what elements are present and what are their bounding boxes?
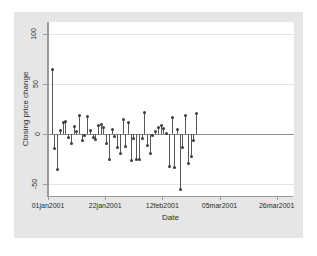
- x-tick-label: 05mar2001: [202, 202, 237, 209]
- data-point-marker: [184, 114, 187, 117]
- data-point-marker: [53, 147, 56, 150]
- y-tick-label: 50: [0, 80, 40, 88]
- x-axis-title: Date: [48, 213, 293, 222]
- data-point-marker: [181, 146, 184, 149]
- x-axis-line: [47, 196, 293, 197]
- data-point-marker: [78, 114, 81, 117]
- data-point-marker: [124, 145, 127, 148]
- spike-bar: [191, 134, 192, 156]
- data-point-marker: [122, 118, 125, 121]
- data-point-marker: [195, 112, 198, 115]
- data-point-marker: [143, 111, 146, 114]
- data-point-marker: [187, 162, 190, 165]
- spike-bar: [136, 134, 137, 159]
- spike-bar: [188, 134, 189, 163]
- spike-bar: [54, 134, 55, 148]
- y-axis-title-label: Closing price change: [20, 22, 32, 196]
- data-point-marker: [146, 144, 149, 147]
- gridline-50: [49, 84, 294, 85]
- data-point-marker: [165, 132, 168, 135]
- gridline-100: [49, 34, 294, 35]
- y-tick-mark: [43, 134, 47, 135]
- spike-bar: [172, 117, 173, 134]
- data-point-marker: [173, 166, 176, 169]
- x-tick-mark: [277, 196, 278, 200]
- data-point-marker: [149, 152, 152, 155]
- data-point-marker: [127, 121, 130, 124]
- spike-bar: [174, 134, 175, 167]
- figure-canvas: Closing price change 100500-50 01jan2001…: [0, 0, 317, 256]
- spike-bar: [52, 69, 53, 134]
- data-point-marker: [94, 138, 97, 141]
- x-tick-mark: [220, 196, 221, 200]
- x-tick-mark: [48, 196, 49, 200]
- spike-bar: [150, 134, 151, 153]
- data-point-marker: [138, 158, 141, 161]
- spike-bar: [109, 134, 110, 159]
- spike-bar: [196, 113, 197, 134]
- data-point-marker: [105, 142, 108, 145]
- data-point-marker: [64, 120, 67, 123]
- y-tick-label: -50: [0, 180, 40, 188]
- data-point-marker: [130, 159, 133, 162]
- spike-bar: [180, 134, 181, 189]
- data-point-marker: [75, 130, 78, 133]
- x-tick-label: 26mar2001: [259, 202, 294, 209]
- spike-bar: [65, 121, 66, 134]
- spike-bar: [57, 134, 58, 169]
- y-tick-label-text: 0: [34, 132, 42, 136]
- x-tick-mark: [105, 196, 106, 200]
- x-tick-label: 22jan2001: [89, 202, 122, 209]
- data-point-marker: [119, 152, 122, 155]
- y-tick-label-text: 50: [32, 80, 40, 88]
- y-tick-label-text: 100: [30, 28, 38, 40]
- data-point-marker: [81, 139, 84, 142]
- y-tick-mark: [43, 34, 47, 35]
- x-tick-label: 12feb2001: [146, 202, 179, 209]
- spike-bar: [185, 115, 186, 134]
- spike-bar: [169, 134, 170, 166]
- data-point-marker: [132, 137, 135, 140]
- data-point-marker: [86, 115, 89, 118]
- data-point-marker: [179, 188, 182, 191]
- data-point-marker: [111, 128, 114, 131]
- data-point-marker: [154, 130, 157, 133]
- data-point-marker: [171, 116, 174, 119]
- data-point-marker: [89, 129, 92, 132]
- data-point-marker: [51, 68, 54, 71]
- spike-bar: [87, 116, 88, 134]
- data-point-marker: [56, 168, 59, 171]
- spike-bar: [79, 115, 80, 134]
- data-point-marker: [116, 146, 119, 149]
- data-point-marker: [73, 125, 76, 128]
- data-point-marker: [102, 126, 105, 129]
- data-point-marker: [59, 129, 62, 132]
- data-point-marker: [192, 139, 195, 142]
- spike-bar: [128, 122, 129, 134]
- data-point-marker: [70, 142, 73, 145]
- spike-bar: [144, 112, 145, 134]
- data-point-marker: [168, 165, 171, 168]
- spike-bar: [139, 134, 140, 159]
- spike-bar: [120, 134, 121, 153]
- y-axis-title: Closing price change: [20, 0, 32, 22]
- gridline--50: [49, 184, 294, 185]
- data-point-marker: [141, 137, 144, 140]
- y-tick-label: 0: [0, 130, 40, 138]
- y-tick-mark: [43, 184, 47, 185]
- spike-bar: [123, 119, 124, 134]
- plot-area: [48, 22, 294, 196]
- y-tick-mark: [43, 84, 47, 85]
- data-point-marker: [190, 155, 193, 158]
- data-point-marker: [108, 158, 111, 161]
- data-point-marker: [176, 128, 179, 131]
- y-tick-label: 100: [0, 30, 40, 38]
- spike-bar: [63, 122, 64, 134]
- data-point-marker: [113, 135, 116, 138]
- data-point-marker: [67, 136, 70, 139]
- x-tick-mark: [162, 196, 163, 200]
- y-tick-label-text: -50: [31, 179, 39, 189]
- data-point-marker: [162, 127, 165, 130]
- x-tick-label: 01jan2001: [32, 202, 65, 209]
